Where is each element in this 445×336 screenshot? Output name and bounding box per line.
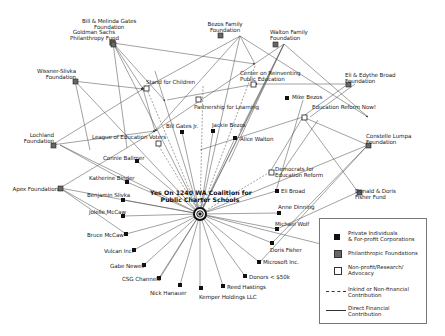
- label-partnership: Partnership for Learning: [194, 104, 259, 110]
- node-doris[interactable]: [270, 241, 274, 245]
- label-michael: Michael Wolf: [275, 221, 309, 227]
- label-crpe: Center on ReinventingPublic Education: [240, 70, 301, 82]
- node-donors[interactable]: [243, 274, 247, 278]
- node-crpe[interactable]: [251, 82, 256, 87]
- node-apex[interactable]: [58, 186, 63, 191]
- label-doris: Doris Fisher: [270, 247, 302, 253]
- node-bruce[interactable]: [124, 232, 128, 236]
- node-eli[interactable]: [275, 189, 279, 193]
- label-reed: Reed Hastings: [227, 284, 266, 290]
- node-jackie-bezos[interactable]: [211, 129, 215, 133]
- node-nick[interactable]: [178, 283, 182, 287]
- dashed-arrow-icon: [326, 291, 346, 292]
- label-katherine: Katherine Binder: [89, 175, 134, 181]
- label-dfer: Democrats forEducation Reform: [275, 166, 323, 178]
- legend: Private Individuals& For-profit Corporat…: [319, 218, 427, 324]
- node-microsoft[interactable]: [257, 260, 261, 264]
- label-lumpa: Constelle LumpaFoundation: [366, 133, 411, 145]
- nonprofit-swatch-icon: [334, 267, 342, 275]
- hub-label: Yes On 1240 WA Coalition forPublic Chart…: [150, 189, 250, 203]
- node-kemper[interactable]: [199, 286, 203, 290]
- label-league: League of Education Voters: [92, 134, 166, 140]
- label-stand: Stand for Children: [146, 79, 195, 85]
- label-alice-walton: Alice Walton: [240, 136, 273, 142]
- label-microsoft: Microsoft Inc.: [263, 259, 299, 265]
- node-bezos-family[interactable]: [218, 33, 223, 38]
- node-dfer[interactable]: [269, 170, 274, 175]
- node-stand-for-children[interactable]: [144, 86, 149, 91]
- node-league[interactable]: [156, 141, 161, 146]
- label-gabe: Gabe Newell: [110, 263, 144, 269]
- solid-arrow-icon: [326, 310, 346, 311]
- node-reed[interactable]: [221, 284, 225, 288]
- label-csg: CSG Channels: [122, 276, 160, 282]
- label-ern: Education Reform Now!: [312, 104, 376, 110]
- node-alice-walton[interactable]: [233, 136, 237, 140]
- label-jolelle: Jolelle McCaw: [89, 209, 126, 215]
- label-bill-gates-jr: Bill Gates Jr.: [166, 123, 198, 129]
- label-bezos-family: Bezos FamilyFoundation: [205, 21, 245, 33]
- node-mike-bezos[interactable]: [285, 96, 289, 100]
- foundation-swatch-icon: [334, 250, 342, 258]
- label-bruce: Bruce McCaw: [87, 232, 124, 238]
- label-eli: Eli Broad: [281, 188, 305, 194]
- label-donors: Donors < $50k: [249, 274, 290, 280]
- label-connie: Connie Ballmer: [103, 155, 144, 161]
- private-swatch-icon: [334, 234, 340, 240]
- node-benjamin[interactable]: [121, 198, 125, 202]
- node-walton-family[interactable]: [273, 42, 278, 47]
- label-kemper: Kemper Holdings LLC: [199, 294, 257, 300]
- node-goldman[interactable]: [111, 42, 116, 47]
- label-goldman: Goldman SachsPhilanthropy Fund: [70, 29, 115, 41]
- label-fisher-fund: Donald & DorisFisher Fund: [355, 188, 396, 200]
- label-wissner: Wissner-SlivkaFoundation: [36, 68, 76, 80]
- label-mike-bezos: Mike Bezos: [292, 94, 322, 100]
- label-lochland: LochlandFoundation: [14, 132, 54, 144]
- label-vulcan: Vulcan Inc.: [104, 248, 133, 254]
- label-nick: Nick Hanauer: [150, 290, 187, 296]
- label-jackie-bezos: Jackie Bezos: [212, 122, 246, 128]
- node-ern[interactable]: [302, 115, 307, 120]
- label-walton-family: Walton FamilyFoundation: [270, 29, 308, 41]
- node-bill-gates-jr[interactable]: [180, 130, 184, 134]
- label-broad-foundation: Eli & Edythe BroadFoundation: [345, 72, 396, 84]
- node-partnership[interactable]: [196, 97, 201, 102]
- label-benjamin: Benjamin Slivka: [87, 192, 130, 198]
- hub-node: [194, 208, 206, 220]
- node-michael[interactable]: [275, 227, 279, 231]
- label-anne: Anne Dinning: [278, 204, 315, 210]
- node-anne[interactable]: [277, 211, 281, 215]
- label-apex: Apex Foundation: [6, 186, 58, 192]
